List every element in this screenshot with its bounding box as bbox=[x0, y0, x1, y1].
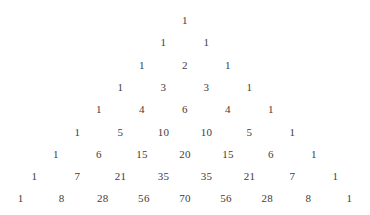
triangle-cell: 1 bbox=[142, 33, 185, 51]
triangle-cell: 1 bbox=[250, 100, 293, 118]
triangle-cell: 1 bbox=[185, 33, 228, 51]
triangle-cell: 21 bbox=[228, 167, 271, 185]
triangle-row: 1 bbox=[0, 11, 370, 29]
triangle-cell: 6 bbox=[250, 145, 293, 163]
triangle-cell: 8 bbox=[288, 189, 329, 207]
triangle-cell: 1 bbox=[329, 189, 370, 207]
triangle-cell: 4 bbox=[121, 100, 164, 118]
triangle-cell: 7 bbox=[271, 167, 314, 185]
triangle-cell: 56 bbox=[123, 189, 164, 207]
triangle-cell: 35 bbox=[185, 167, 228, 185]
triangle-row: 172135352171 bbox=[0, 167, 370, 185]
triangle-cell: 56 bbox=[206, 189, 247, 207]
triangle-cell: 1 bbox=[207, 56, 250, 74]
triangle-cell: 1 bbox=[35, 145, 78, 163]
triangle-cell: 1 bbox=[314, 167, 357, 185]
triangle-cell: 3 bbox=[142, 78, 185, 96]
triangle-cell: 1 bbox=[228, 78, 271, 96]
triangle-row: 15101051 bbox=[0, 123, 370, 141]
triangle-cell: 15 bbox=[121, 145, 164, 163]
triangle-cell: 1 bbox=[99, 78, 142, 96]
triangle-cell: 70 bbox=[164, 189, 205, 207]
pascals-triangle: 1111211331146411510105116152015611721353… bbox=[0, 0, 370, 215]
triangle-cell: 3 bbox=[185, 78, 228, 96]
triangle-cell: 10 bbox=[185, 123, 228, 141]
triangle-cell: 1 bbox=[293, 145, 336, 163]
triangle-cell: 1 bbox=[78, 100, 121, 118]
triangle-cell: 15 bbox=[207, 145, 250, 163]
triangle-cell: 5 bbox=[228, 123, 271, 141]
triangle-cell: 6 bbox=[164, 100, 207, 118]
triangle-cell: 1 bbox=[13, 167, 56, 185]
triangle-cell: 1 bbox=[164, 11, 207, 29]
triangle-cell: 6 bbox=[78, 145, 121, 163]
triangle-row: 121 bbox=[0, 56, 370, 74]
triangle-cell: 21 bbox=[99, 167, 142, 185]
triangle-cell: 1 bbox=[0, 189, 41, 207]
triangle-cell: 10 bbox=[142, 123, 185, 141]
triangle-cell: 8 bbox=[41, 189, 82, 207]
triangle-cell: 28 bbox=[247, 189, 288, 207]
triangle-row: 14641 bbox=[0, 100, 370, 118]
triangle-cell: 1 bbox=[121, 56, 164, 74]
triangle-cell: 1 bbox=[271, 123, 314, 141]
triangle-row: 1615201561 bbox=[0, 145, 370, 163]
triangle-row: 11 bbox=[0, 33, 370, 51]
triangle-cell: 28 bbox=[82, 189, 123, 207]
triangle-row: 1331 bbox=[0, 78, 370, 96]
triangle-cell: 4 bbox=[207, 100, 250, 118]
triangle-row: 18285670562881 bbox=[0, 189, 370, 207]
triangle-cell: 1 bbox=[56, 123, 99, 141]
triangle-cell: 7 bbox=[56, 167, 99, 185]
triangle-cell: 20 bbox=[164, 145, 207, 163]
triangle-cell: 2 bbox=[164, 56, 207, 74]
triangle-cell: 5 bbox=[99, 123, 142, 141]
triangle-cell: 35 bbox=[142, 167, 185, 185]
